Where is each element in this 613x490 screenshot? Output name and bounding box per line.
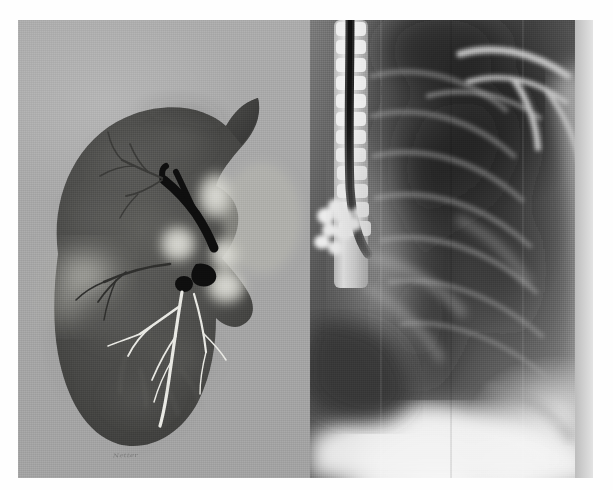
lung-illustration-body [30, 68, 298, 438]
lung-vector-drawing [30, 68, 310, 468]
figure-root: Netter [0, 0, 613, 490]
panel-anatomical-lung-illustration: Netter [18, 20, 310, 478]
radiograph-vector-drawing [310, 20, 593, 478]
panel-chest-radiograph [310, 20, 593, 478]
plate-right-margin [575, 20, 593, 478]
pulmonary-vein-superior-mass [156, 222, 200, 266]
bronchus-lower-lobe-orifice [175, 276, 193, 292]
figure-plate: Netter [18, 20, 593, 478]
mediastinal-surface [222, 162, 302, 274]
